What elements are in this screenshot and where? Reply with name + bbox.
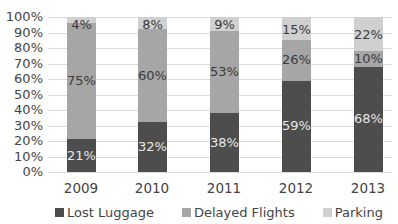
- bar-segment-parking: 4%: [67, 17, 96, 23]
- bar-segment-lost-luggage: 32%: [138, 122, 167, 172]
- x-axis-tick-label: 2009: [51, 180, 111, 196]
- bar-segment-parking: 8%: [138, 17, 167, 29]
- bar-2010: 32%60%8%: [138, 17, 167, 172]
- bar-2013: 68%10%22%: [354, 17, 383, 172]
- y-axis-tick-label: 60%: [14, 72, 43, 85]
- y-axis-tick-label: 90%: [14, 26, 43, 39]
- bar-segment-delayed-flights: 75%: [67, 23, 96, 139]
- bar-segment-lost-luggage: 38%: [210, 113, 239, 172]
- bar-segment-delayed-flights: 26%: [282, 40, 311, 80]
- bar-segment-parking: 22%: [354, 17, 383, 51]
- data-label: 59%: [276, 119, 317, 132]
- y-axis-tick-label: 100%: [6, 10, 43, 23]
- data-label: 53%: [204, 65, 245, 78]
- data-label: 10%: [348, 52, 389, 65]
- bar-segment-lost-luggage: 68%: [354, 67, 383, 172]
- bar-segment-delayed-flights: 10%: [354, 51, 383, 67]
- data-label: 21%: [61, 149, 102, 162]
- data-label: 75%: [61, 74, 102, 87]
- data-label: 22%: [348, 28, 389, 41]
- y-axis-tick-label: 70%: [14, 57, 43, 70]
- x-axis-tick-label: 2013: [338, 180, 398, 196]
- bar-2012: 59%26%15%: [282, 17, 311, 172]
- y-axis-tick-label: 80%: [14, 41, 43, 54]
- legend-label: Parking: [335, 205, 383, 220]
- legend-item: Parking: [323, 205, 383, 220]
- bar-segment-parking: 9%: [210, 17, 239, 31]
- y-axis-tick-label: 30%: [14, 119, 43, 132]
- data-label: 8%: [132, 18, 173, 31]
- legend-label: Delayed Flights: [194, 205, 295, 220]
- x-axis-tick-label: 2012: [266, 180, 326, 196]
- bar-segment-lost-luggage: 59%: [282, 81, 311, 172]
- gridline: [48, 172, 392, 173]
- y-axis-tick-label: 40%: [14, 103, 43, 116]
- legend-item: Delayed Flights: [182, 205, 295, 220]
- bar-segment-delayed-flights: 60%: [138, 29, 167, 122]
- bar-2009: 21%75%4%: [67, 17, 96, 172]
- y-axis-tick-label: 20%: [14, 134, 43, 147]
- legend-item: Lost Luggage: [55, 205, 154, 220]
- legend-swatch: [182, 208, 191, 217]
- stacked-bar-chart: 0%10%20%30%40%50%60%70%80%90%100%21%75%4…: [0, 0, 398, 224]
- legend-swatch: [55, 208, 64, 217]
- x-axis-tick-label: 2011: [194, 180, 254, 196]
- bar-2011: 38%53%9%: [210, 17, 239, 172]
- bar-segment-delayed-flights: 53%: [210, 31, 239, 113]
- legend-label: Lost Luggage: [67, 205, 154, 220]
- data-label: 60%: [132, 69, 173, 82]
- data-label: 32%: [132, 140, 173, 153]
- data-label: 9%: [204, 18, 245, 31]
- data-label: 26%: [276, 53, 317, 66]
- data-label: 15%: [276, 23, 317, 36]
- data-label: 4%: [61, 18, 102, 31]
- x-axis-tick-label: 2010: [122, 180, 182, 196]
- bar-segment-parking: 15%: [282, 17, 311, 40]
- y-axis-tick-label: 0%: [22, 165, 43, 178]
- y-axis-tick-label: 50%: [14, 88, 43, 101]
- legend: Lost LuggageDelayed FlightsParking: [55, 205, 383, 220]
- legend-swatch: [323, 208, 332, 217]
- data-label: 68%: [348, 112, 389, 125]
- bar-segment-lost-luggage: 21%: [67, 139, 96, 172]
- y-axis-tick-label: 10%: [14, 150, 43, 163]
- data-label: 38%: [204, 136, 245, 149]
